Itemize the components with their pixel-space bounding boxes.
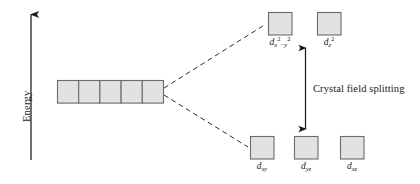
eg-box-dx2y2 — [269, 13, 293, 36]
dashed-line-to-eg — [164, 24, 266, 88]
orbital-label-dyz: dyz — [292, 162, 320, 172]
orbital-label-dx2y2: dx2−y2 — [256, 38, 304, 48]
dashed-line-to-t2g — [164, 95, 248, 147]
orbital-base-d: d — [347, 161, 352, 171]
orbital-sup-2: 2 — [331, 35, 334, 42]
t2g-box-dyz — [295, 137, 319, 160]
degenerate-box-2 — [79, 81, 100, 104]
t2g-box-dxz — [341, 137, 365, 160]
t2g-level-boxes — [251, 137, 365, 160]
orbital-label-dz2: dz2 — [315, 38, 343, 48]
crystal-field-splitting-diagram: Energy Crystal field splitting dx2−y2 dz… — [0, 0, 420, 184]
orbital-sub-y: y — [284, 41, 287, 48]
degenerate-box-3 — [100, 81, 121, 104]
orbital-sup-2b: 2 — [287, 35, 290, 42]
crystal-field-splitting-label: Crystal field splitting — [313, 84, 405, 95]
orbital-sub-xz: xz — [352, 165, 358, 172]
orbital-sub-x: x — [274, 41, 277, 48]
correlation-lines — [164, 24, 266, 147]
degenerate-box-4 — [121, 81, 142, 104]
energy-axis-label: Energy — [22, 91, 33, 122]
orbital-sub-yz: yz — [306, 165, 312, 172]
degenerate-level-boxes — [58, 81, 164, 104]
orbital-label-dxy: dxy — [248, 162, 276, 172]
orbital-label-dxz: dxz — [338, 162, 366, 172]
degenerate-box-5 — [142, 81, 163, 104]
orbital-sub-z: z — [328, 41, 331, 48]
eg-box-dz2 — [318, 13, 342, 36]
degenerate-box-1 — [58, 81, 79, 104]
t2g-box-dxy — [251, 137, 275, 160]
orbital-sub-xy: xy — [261, 165, 267, 172]
eg-level-boxes — [269, 13, 342, 36]
orbital-base-d: d — [301, 161, 306, 171]
